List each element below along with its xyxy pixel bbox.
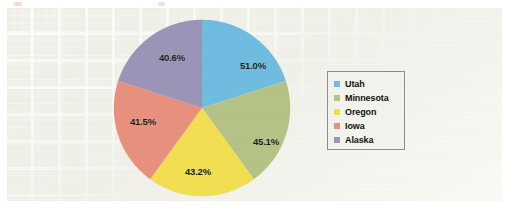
figure-root: 51.0% 45.1% 43.2% 41.5% 40.6% Utah Minne… — [0, 0, 509, 208]
legend-label-iowa: Iowa — [345, 122, 365, 131]
slice-label-alaska: 40.6% — [159, 52, 185, 63]
cropped-heading-sliver — [0, 0, 509, 7]
pie-chart: 51.0% 45.1% 43.2% 41.5% 40.6% — [112, 18, 292, 198]
chart-panel: 51.0% 45.1% 43.2% 41.5% 40.6% Utah Minne… — [7, 8, 502, 201]
legend-swatch-icon-minnesota — [334, 95, 340, 101]
legend-swatch-icon-oregon — [334, 109, 340, 115]
legend-label-minnesota: Minnesota — [345, 94, 389, 103]
legend-item-iowa[interactable]: Iowa — [334, 119, 404, 133]
slice-label-minnesota: 45.1% — [253, 136, 279, 147]
legend-label-utah: Utah — [345, 80, 365, 89]
slice-label-oregon: 43.2% — [185, 166, 211, 177]
legend-item-minnesota[interactable]: Minnesota — [334, 91, 404, 105]
legend-label-alaska: Alaska — [345, 136, 373, 145]
slice-label-iowa: 41.5% — [130, 116, 156, 127]
legend-swatch-icon-utah — [334, 81, 340, 87]
legend-label-oregon: Oregon — [345, 108, 376, 117]
heading-glyph-fragment-left — [14, 2, 22, 6]
legend-item-utah[interactable]: Utah — [334, 77, 404, 91]
legend: Utah Minnesota Oregon Iowa Alaska — [327, 71, 405, 150]
legend-item-oregon[interactable]: Oregon — [334, 105, 404, 119]
legend-item-alaska[interactable]: Alaska — [334, 133, 404, 147]
legend-swatch-icon-alaska — [334, 137, 340, 143]
slice-label-utah: 51.0% — [240, 60, 266, 71]
legend-swatch-icon-iowa — [334, 123, 340, 129]
heading-glyph-fragment-right — [158, 2, 165, 6]
